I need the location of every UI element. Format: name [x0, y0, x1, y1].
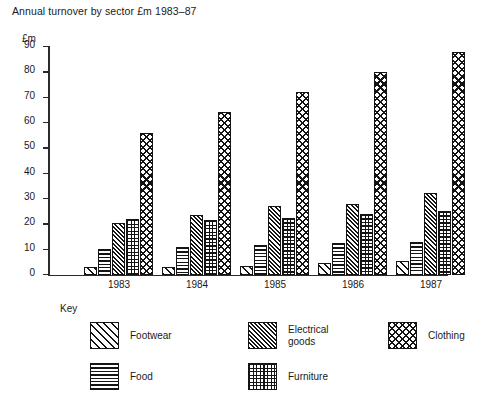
y-tick-40: 40 — [43, 173, 49, 174]
bar-food-1983[interactable] — [98, 249, 111, 274]
y-tick-label-20: 20 — [24, 216, 35, 227]
key-item-electrical-goods: Electrical goods — [248, 322, 329, 349]
bar-group-1983: 1983 — [84, 47, 154, 275]
bar-furniture-1985[interactable] — [282, 218, 295, 275]
y-tick-label-70: 70 — [24, 90, 35, 101]
x-axis-label-1986: 1986 — [342, 279, 364, 290]
swatch-electrical-goods-icon — [248, 322, 277, 349]
x-axis-label-1985: 1985 — [264, 279, 286, 290]
bar-group-1985: 1985 — [240, 47, 310, 275]
key-label-furniture: Furniture — [288, 371, 328, 383]
bar-food-1984[interactable] — [176, 247, 189, 275]
key-item-footwear: Footwear — [90, 322, 172, 349]
x-axis-label-1987: 1987 — [420, 279, 442, 290]
y-tick-60: 60 — [43, 122, 49, 123]
bar-footwear-1983[interactable] — [84, 267, 97, 275]
y-tick-80: 80 — [43, 71, 49, 72]
bar-furniture-1984[interactable] — [204, 220, 217, 274]
bar-footwear-1984[interactable] — [162, 267, 175, 275]
bar-chart-figure: Annual turnover by sector £m 1983–87 £m … — [0, 0, 492, 395]
bar-footwear-1985[interactable] — [240, 266, 253, 275]
key-item-furniture: Furniture — [248, 363, 328, 390]
bar-electrical-goods-1987[interactable] — [424, 193, 437, 274]
bar-electrical-goods-1983[interactable] — [112, 223, 125, 275]
y-tick-label-90: 90 — [24, 39, 35, 50]
swatch-food-icon — [90, 363, 119, 390]
bar-electrical-goods-1986[interactable] — [346, 204, 359, 275]
y-tick-label-40: 40 — [24, 166, 35, 177]
bar-clothing-1985[interactable] — [296, 92, 309, 274]
y-tick-10: 10 — [43, 249, 49, 250]
chart-key: Key Footwear Food Electrical goods Furni… — [48, 300, 492, 392]
bar-clothing-1987[interactable] — [452, 52, 465, 275]
bar-furniture-1987[interactable] — [438, 211, 451, 274]
swatch-footwear-icon — [90, 322, 119, 349]
bar-clothing-1984[interactable] — [218, 112, 231, 274]
bar-furniture-1983[interactable] — [126, 219, 139, 275]
y-tick-50: 50 — [43, 147, 49, 148]
key-label-clothing: Clothing — [428, 330, 465, 342]
y-tick-70: 70 — [43, 97, 49, 98]
y-tick-label-50: 50 — [24, 140, 35, 151]
bar-food-1985[interactable] — [254, 245, 267, 274]
y-tick-label-30: 30 — [24, 191, 35, 202]
bar-group-1987: 1987 — [396, 47, 466, 275]
x-axis-line — [48, 275, 448, 277]
x-axis-label-1983: 1983 — [108, 279, 130, 290]
key-label-electrical-goods: Electrical goods — [288, 324, 329, 347]
bar-footwear-1987[interactable] — [396, 261, 409, 275]
y-tick-label-80: 80 — [24, 64, 35, 75]
bar-electrical-goods-1985[interactable] — [268, 206, 281, 274]
swatch-clothing-icon — [388, 322, 417, 349]
bar-clothing-1983[interactable] — [140, 133, 153, 275]
bar-footwear-1986[interactable] — [318, 263, 331, 274]
y-tick-0: 0 — [43, 274, 49, 275]
y-tick-90: 90 — [43, 46, 49, 47]
y-tick-20: 20 — [43, 223, 49, 224]
key-item-food: Food — [90, 363, 153, 390]
key-item-clothing: Clothing — [388, 322, 465, 349]
bar-food-1987[interactable] — [410, 242, 423, 275]
key-title: Key — [60, 303, 77, 314]
bar-food-1986[interactable] — [332, 243, 345, 275]
y-axis-line — [48, 46, 50, 276]
swatch-furniture-icon — [248, 363, 277, 390]
y-tick-label-0: 0 — [29, 267, 35, 278]
bar-electrical-goods-1984[interactable] — [190, 215, 203, 275]
bar-furniture-1986[interactable] — [360, 214, 373, 275]
bar-clothing-1986[interactable] — [374, 72, 387, 275]
bar-group-1986: 1986 — [318, 47, 388, 275]
chart-title: Annual turnover by sector £m 1983–87 — [12, 5, 197, 17]
key-label-food: Food — [130, 371, 153, 383]
y-tick-label-60: 60 — [24, 115, 35, 126]
x-axis-label-1984: 1984 — [186, 279, 208, 290]
y-tick-label-10: 10 — [24, 242, 35, 253]
key-label-footwear: Footwear — [130, 330, 172, 342]
plot-area: 90 80 70 60 50 40 30 20 10 0 19831984198… — [48, 46, 448, 276]
y-tick-30: 30 — [43, 198, 49, 199]
bar-group-1984: 1984 — [162, 47, 232, 275]
